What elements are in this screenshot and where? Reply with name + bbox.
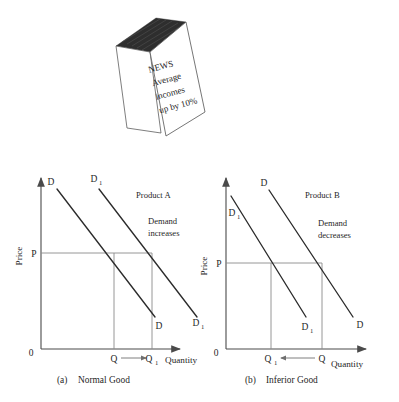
- panel-b-caption-letter: (b): [245, 375, 256, 386]
- panel-b-curve-D-top-label: D: [261, 178, 268, 188]
- panel-b-quantity-label: Q: [319, 354, 326, 364]
- panel-a: 0 P Q Q 1 Price Quantity D D 1 D D 1 Pro…: [14, 174, 204, 386]
- panel-a-y-axis-title: Price: [14, 247, 24, 266]
- panel-b-caption-text: Inferior Good: [266, 375, 318, 385]
- panel-a-quantity-new-label: Q: [146, 354, 153, 364]
- panel-b-curve-D-bottom-label: D: [357, 320, 364, 330]
- panel-a-effect-line-1: Demand: [148, 216, 178, 226]
- panel-a-origin-label: 0: [29, 348, 34, 358]
- panel-b-effect-line-1: Demand: [318, 218, 348, 228]
- panel-b-demand-curve-D: [269, 190, 353, 317]
- panel-b-curve-D1-top-sub: 1: [237, 213, 240, 220]
- panel-a-effect-line-2: increases: [148, 228, 180, 238]
- panel-b-curve-D1-top-label: D: [229, 208, 236, 218]
- economics-demand-figure: NEWS Average incomes up by 10%: [0, 0, 399, 402]
- figure-root: NEWS Average incomes up by 10%: [0, 0, 399, 402]
- panel-b-price-label: P: [216, 259, 221, 269]
- panel-b-y-axis-title: Price: [199, 257, 209, 276]
- panel-a-curve-D1-bottom-sub: 1: [201, 323, 204, 330]
- panel-b-quantity-new-sub: 1: [274, 359, 277, 366]
- panel-b-origin-label: 0: [214, 348, 219, 358]
- panel-a-x-axis-title: Quantity: [165, 355, 198, 365]
- panel-a-quantity-new-sub: 1: [155, 359, 158, 366]
- panel-b-x-axis-title: Quantity: [331, 359, 364, 369]
- panel-a-curve-D1-bottom-label: D: [193, 318, 200, 328]
- panel-a-caption-text: Normal Good: [78, 375, 130, 385]
- panel-b-curve-D1-bottom-label: D: [302, 322, 309, 332]
- panel-a-caption-letter: (a): [57, 375, 67, 386]
- panel-a-curve-D-top-label: D: [48, 177, 55, 187]
- panel-a-price-label: P: [31, 249, 36, 259]
- panel-b-quantity-new-label: Q: [265, 354, 272, 364]
- panel-b: 0 P Q 1 Q Price Quantity D 1 D D 1 D Pro…: [199, 178, 366, 386]
- panel-b-curve-D1-bottom-sub: 1: [310, 327, 313, 334]
- panel-b-product-label: Product B: [305, 190, 340, 200]
- panel-b-effect-line-2: decreases: [318, 230, 352, 240]
- panel-b-demand-curve-D1: [231, 196, 306, 317]
- news-illustration: NEWS Average incomes up by 10%: [116, 18, 205, 136]
- panel-a-curve-D-bottom-label: D: [156, 321, 163, 331]
- panel-a-curve-D1-top-label: D: [91, 174, 98, 184]
- panel-a-quantity-label: Q: [111, 354, 118, 364]
- panel-a-curve-D1-top-sub: 1: [99, 179, 102, 186]
- panel-a-product-label: Product A: [136, 190, 171, 200]
